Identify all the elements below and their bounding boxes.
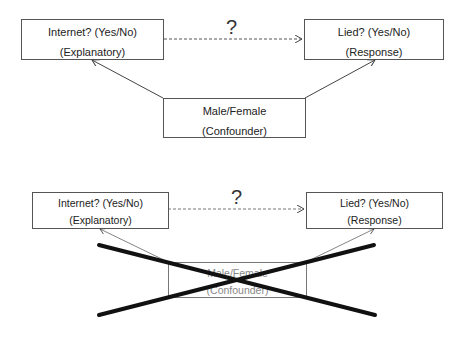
cross-out-mark [0,0,467,338]
